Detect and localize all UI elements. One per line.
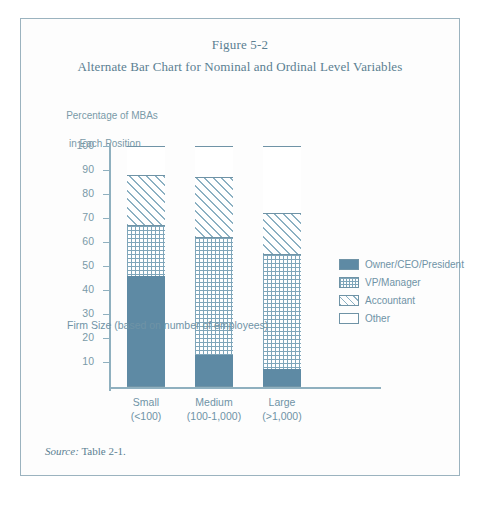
- y-tick-label-60: 60: [82, 235, 94, 247]
- segment-medium-hatch: [195, 177, 234, 237]
- y-tick-label-50: 50: [82, 259, 94, 271]
- y-tick-label-90: 90: [82, 163, 94, 175]
- y-tick-100: 100: [103, 146, 110, 148]
- legend-swatch-grid: [339, 277, 359, 288]
- segment-large-empty: [263, 146, 302, 213]
- figure-number: Figure 5-2: [21, 37, 459, 53]
- x-category-large: Large(>1,000): [237, 395, 327, 423]
- y-tick-label-100: 100: [76, 139, 94, 151]
- legend-swatch-hatch: [339, 295, 359, 306]
- legend-label: Owner/CEO/President: [365, 259, 464, 270]
- y-tick-10: 10: [103, 362, 110, 364]
- y-axis-title-line1: Percentage of MBAs: [66, 110, 158, 121]
- segment-large-grid: [263, 254, 302, 369]
- segment-medium-empty: [195, 146, 234, 177]
- x-axis-line: [109, 387, 381, 389]
- bar-medium: [195, 147, 233, 387]
- figure-frame: Figure 5-2 Alternate Bar Chart for Nomin…: [20, 18, 460, 476]
- segment-medium-solid: [195, 355, 234, 386]
- y-tick-label-70: 70: [82, 211, 94, 223]
- figure-caption: Alternate Bar Chart for Nominal and Ordi…: [21, 59, 459, 75]
- y-tick-50: 50: [103, 266, 110, 268]
- bar-small: [127, 147, 165, 387]
- y-tick-60: 60: [103, 242, 110, 244]
- legend-item: VP/Manager: [339, 274, 464, 290]
- plot-area: 102030405060708090100 Small(<100)Medium(…: [109, 147, 329, 387]
- source-prefix: Source:: [45, 445, 79, 457]
- y-tick-label-30: 30: [82, 307, 94, 319]
- y-tick-label-10: 10: [82, 355, 94, 367]
- x-axis-title: Firm Size (based on number of employees): [67, 319, 268, 331]
- legend-label: Accountant: [365, 295, 415, 306]
- y-tick-20: 20: [103, 338, 110, 340]
- segment-small-empty: [127, 146, 166, 175]
- legend-item: Accountant: [339, 292, 464, 308]
- y-tick-90: 90: [103, 170, 110, 172]
- y-tick-label-80: 80: [82, 187, 94, 199]
- y-axis-line: [109, 143, 111, 391]
- legend-label: Other: [365, 313, 390, 324]
- legend-swatch-empty: [339, 313, 359, 324]
- bar-large: [263, 147, 301, 387]
- segment-medium-grid: [195, 237, 234, 355]
- chart-legend: Owner/CEO/PresidentVP/ManagerAccountantO…: [339, 256, 464, 328]
- y-tick-label-40: 40: [82, 283, 94, 295]
- legend-item: Owner/CEO/President: [339, 256, 464, 272]
- legend-item: Other: [339, 310, 464, 326]
- y-tick-70: 70: [103, 218, 110, 220]
- y-tick-30: 30: [103, 314, 110, 316]
- source-text: Table 2-1.: [81, 445, 125, 457]
- source-note: Source: Table 2-1.: [45, 445, 126, 457]
- y-tick-80: 80: [103, 194, 110, 196]
- legend-swatch-solid: [339, 259, 359, 270]
- y-tick-label-20: 20: [82, 331, 94, 343]
- y-tick-40: 40: [103, 290, 110, 292]
- legend-label: VP/Manager: [365, 277, 421, 288]
- segment-small-hatch: [127, 175, 166, 225]
- x-category-name: Large: [237, 395, 327, 409]
- segment-large-hatch: [263, 213, 302, 254]
- segment-small-grid: [127, 225, 166, 275]
- segment-large-solid: [263, 369, 302, 386]
- x-category-range: (>1,000): [237, 409, 327, 423]
